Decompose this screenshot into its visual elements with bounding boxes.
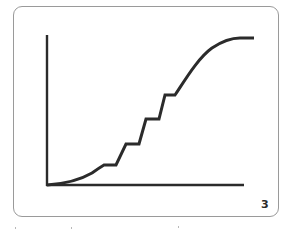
panel-number-label: 3 [261,198,269,211]
stepped-sigmoid-plot [0,0,292,230]
stepped-sigmoid-curve [47,38,254,185]
scan-speck [15,227,16,229]
scan-speck [178,226,179,228]
scan-speck [71,227,72,229]
